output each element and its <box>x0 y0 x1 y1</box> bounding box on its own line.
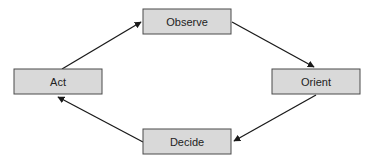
node-label-observe: Observe <box>166 16 208 28</box>
arrow-orient-to-decide <box>234 95 316 141</box>
node-decide: Decide <box>143 129 231 154</box>
nodes-group: ObserveOrientDecideAct <box>14 9 360 154</box>
arrow-act-to-observe <box>62 22 141 69</box>
node-orient: Orient <box>272 69 360 94</box>
node-label-orient: Orient <box>301 76 331 88</box>
node-label-act: Act <box>50 76 66 88</box>
node-act: Act <box>14 69 102 94</box>
arrow-decide-to-act <box>58 97 143 142</box>
arrow-observe-to-orient <box>232 22 314 67</box>
node-label-decide: Decide <box>170 136 204 148</box>
ooda-loop-diagram: ObserveOrientDecideAct <box>0 0 372 163</box>
node-observe: Observe <box>143 9 231 34</box>
